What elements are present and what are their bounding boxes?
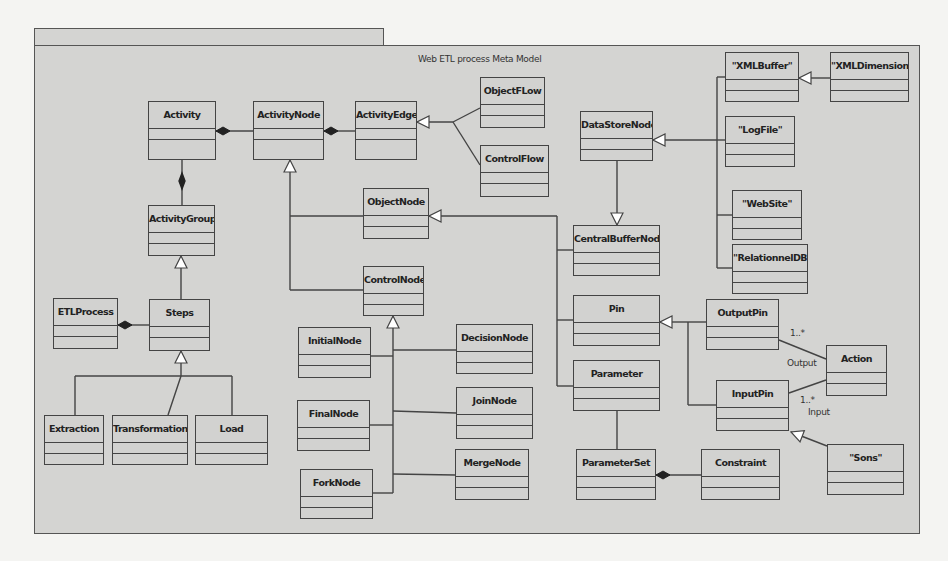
class-name: ParameterSet <box>577 450 655 477</box>
class-name: Extraction <box>45 416 103 443</box>
class-name: "RelationnelDB" <box>733 245 807 272</box>
attributes-compartment <box>577 477 655 488</box>
class-log-file[interactable]: "LogFile" <box>725 116 795 167</box>
class-decision-node[interactable]: DecisionNode <box>456 324 533 374</box>
attributes-compartment <box>581 139 652 150</box>
operations-compartment <box>457 426 532 436</box>
operations-compartment <box>726 155 794 165</box>
attributes-compartment <box>457 352 532 363</box>
operations-compartment <box>298 439 369 449</box>
attributes-compartment <box>831 80 908 91</box>
class-activity[interactable]: Activity <box>148 101 216 160</box>
attributes-compartment <box>54 326 117 337</box>
attributes-compartment <box>149 233 214 244</box>
class-load[interactable]: Load <box>195 415 268 465</box>
class-output-pin[interactable]: OutputPin <box>706 299 779 350</box>
class-etl-process[interactable]: ETLProcess <box>53 298 118 349</box>
class-final-node[interactable]: FinalNode <box>297 400 370 451</box>
attributes-compartment <box>733 272 807 283</box>
class-name: "XMLDimension" <box>831 53 908 80</box>
attributes-compartment <box>457 415 532 426</box>
operations-compartment <box>54 337 117 347</box>
class-name: Constraint <box>702 450 779 477</box>
class-central-buffer-node[interactable]: CentralBufferNode <box>573 225 660 276</box>
class-parameter-set[interactable]: ParameterSet <box>576 449 656 500</box>
class-name: Pin <box>574 296 659 323</box>
class-activity-edge[interactable]: ActivityEdge <box>355 101 417 160</box>
operations-compartment <box>581 150 652 160</box>
class-steps[interactable]: Steps <box>149 299 210 351</box>
class-fork-node[interactable]: ForkNode <box>300 469 373 519</box>
operations-compartment <box>364 305 423 315</box>
class-object-flow[interactable]: ObjectFLow <box>480 77 545 128</box>
attributes-compartment <box>707 327 778 338</box>
class-input-pin[interactable]: InputPin <box>716 380 789 431</box>
class-extraction[interactable]: Extraction <box>44 415 104 465</box>
operations-compartment <box>301 508 372 518</box>
attributes-compartment <box>726 144 794 155</box>
class-name: ControlFlow <box>481 146 548 173</box>
class-name: FinalNode <box>298 401 369 428</box>
class-name: ControlNode <box>364 267 423 294</box>
operations-compartment <box>577 488 655 498</box>
attributes-compartment <box>481 105 544 116</box>
class-name: "LogFile" <box>726 117 794 144</box>
attributes-compartment <box>574 253 659 264</box>
attributes-compartment <box>733 218 801 229</box>
operations-compartment <box>574 264 659 274</box>
operations-compartment <box>254 140 323 150</box>
attributes-compartment <box>150 327 209 338</box>
class-name: Activity <box>149 102 215 129</box>
class-constraint[interactable]: Constraint <box>701 449 780 500</box>
operations-compartment <box>574 399 659 409</box>
class-relationnel-db[interactable]: "RelationnelDB" <box>732 244 808 294</box>
class-control-node[interactable]: ControlNode <box>363 266 424 316</box>
class-object-node[interactable]: ObjectNode <box>363 188 429 239</box>
input-multiplicity-label: 1..* <box>800 395 815 405</box>
class-name: Steps <box>150 300 209 327</box>
attributes-compartment <box>299 355 370 366</box>
class-name: ForkNode <box>301 470 372 497</box>
class-pin[interactable]: Pin <box>573 295 660 346</box>
operations-compartment <box>364 227 428 237</box>
attributes-compartment <box>717 408 788 419</box>
class-merge-node[interactable]: MergeNode <box>455 449 529 500</box>
operations-compartment <box>356 140 416 150</box>
class-sons[interactable]: "Sons" <box>827 444 904 495</box>
class-parameter[interactable]: Parameter <box>573 360 660 411</box>
class-join-node[interactable]: JoinNode <box>456 387 533 439</box>
class-name: InitialNode <box>299 328 370 355</box>
output-role-label: Output <box>787 358 816 368</box>
operations-compartment <box>457 363 532 373</box>
uml-diagram-canvas: Web ETL process Meta Model <box>0 0 948 561</box>
operations-compartment <box>707 338 778 348</box>
class-xml-dimension[interactable]: "XMLDimension" <box>830 52 909 102</box>
class-name: "XMLBuffer" <box>726 53 798 80</box>
output-multiplicity-label: 1..* <box>790 328 805 338</box>
class-data-store-node[interactable]: DataStoreNode <box>580 111 653 161</box>
class-initial-node[interactable]: InitialNode <box>298 327 371 378</box>
operations-compartment <box>45 454 103 464</box>
class-control-flow[interactable]: ControlFlow <box>480 145 549 197</box>
attributes-compartment <box>574 388 659 399</box>
attributes-compartment <box>481 173 548 184</box>
class-transformation[interactable]: Transformation <box>112 415 188 465</box>
class-name: ObjectNode <box>364 189 428 216</box>
attributes-compartment <box>456 477 528 488</box>
attributes-compartment <box>364 216 428 227</box>
class-activity-group[interactable]: ActivityGroup <box>148 205 215 256</box>
attributes-compartment <box>364 294 423 305</box>
operations-compartment <box>150 338 209 348</box>
class-activity-node[interactable]: ActivityNode <box>253 101 324 160</box>
attributes-compartment <box>196 443 267 454</box>
class-name: DecisionNode <box>457 325 532 352</box>
attributes-compartment <box>356 129 416 140</box>
attributes-compartment <box>298 428 369 439</box>
class-web-site[interactable]: "WebSite" <box>732 190 802 240</box>
class-action[interactable]: Action <box>826 345 887 396</box>
class-name: "Sons" <box>828 445 903 472</box>
attributes-compartment <box>113 443 187 454</box>
class-xml-buffer[interactable]: "XMLBuffer" <box>725 52 799 102</box>
class-name: MergeNode <box>456 450 528 477</box>
operations-compartment <box>574 334 659 344</box>
